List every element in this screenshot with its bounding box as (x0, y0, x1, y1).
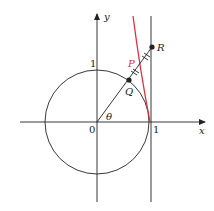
point-p-label: P (127, 58, 135, 69)
point-r-dot (149, 44, 154, 49)
point-q-label: Q (125, 86, 133, 97)
point-q-dot (126, 77, 131, 82)
y-one-label: 1 (90, 58, 96, 69)
theta-label: θ (106, 111, 112, 122)
theta-arc (102, 116, 105, 122)
diagram: x y 0 1 1 θ P Q R (0, 0, 214, 211)
point-r-label: R (156, 42, 165, 53)
x-axis-label: x (199, 125, 205, 136)
x-one-label: 1 (153, 124, 159, 135)
y-axis-label: y (103, 11, 110, 22)
origin-label: 0 (89, 124, 95, 135)
